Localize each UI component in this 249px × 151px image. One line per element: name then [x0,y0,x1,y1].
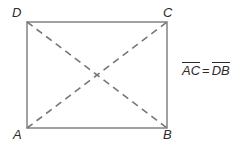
vertex-label-d: D [12,6,21,19]
equation-right-segment: DB [212,62,230,77]
geometry-figure: D C A B AC=DB [0,0,249,151]
vertex-label-b: B [163,128,172,141]
vertex-label-c: C [163,6,172,19]
segment-equality-equation: AC=DB [182,61,230,77]
equation-equals-sign: = [200,64,212,77]
vertex-label-a: A [13,128,22,141]
equation-left-segment: AC [182,62,200,77]
